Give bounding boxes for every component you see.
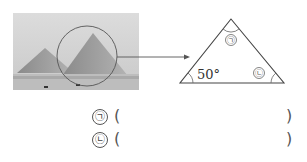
- known-angle-label: 50°: [197, 67, 220, 82]
- apex-angle-marker: ㉠: [227, 36, 235, 45]
- left-angle-arc: [188, 73, 193, 83]
- problem-figure: 50° ㉠ ㉡: [0, 0, 307, 100]
- answer-row-2: ㉡ ( ): [0, 132, 307, 152]
- answer-label-2: ㉡: [92, 132, 108, 148]
- close-paren: ): [286, 129, 292, 148]
- right-angle-marker: ㉡: [255, 69, 263, 78]
- triangle-diagram: 50° ㉠ ㉡: [180, 19, 284, 83]
- answer-input-2[interactable]: [126, 132, 286, 152]
- pyramid-photo: [13, 13, 139, 90]
- open-paren: (: [114, 106, 120, 125]
- close-paren: ): [286, 106, 292, 125]
- answer-row-1: ㉠ ( ): [0, 109, 307, 129]
- right-angle-arc: [271, 73, 276, 83]
- open-paren: (: [114, 129, 120, 148]
- apex-angle-arc: [223, 29, 239, 32]
- answer-label-1: ㉠: [92, 109, 108, 125]
- answer-input-1[interactable]: [126, 109, 286, 129]
